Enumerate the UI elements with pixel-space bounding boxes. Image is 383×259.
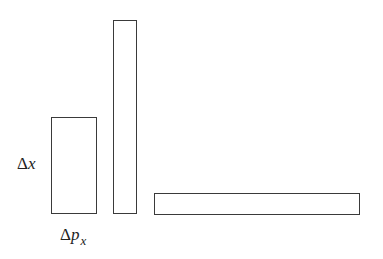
delta-px-label: Δpx — [60, 226, 86, 243]
delta-symbol: Δ — [60, 225, 71, 244]
delta-x-label: Δx — [17, 155, 35, 172]
phase-cell-tall — [113, 20, 137, 214]
delta-symbol: Δ — [17, 154, 28, 173]
phase-cell-medium — [51, 117, 97, 214]
x-subscript: x — [80, 233, 86, 248]
x-variable: x — [28, 154, 36, 173]
p-variable: p — [71, 225, 80, 244]
phase-cell-wide — [154, 193, 360, 215]
